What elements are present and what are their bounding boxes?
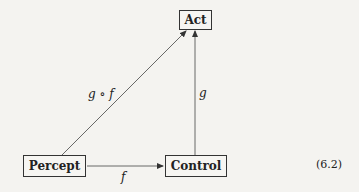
node-percept: Percept [23, 155, 86, 177]
edge-label-g-compose-f: g ∘ f [88, 87, 114, 101]
edge-label-g: g [199, 86, 207, 100]
edge-label-f: f [121, 170, 125, 184]
node-act: Act [179, 10, 212, 30]
node-control: Control [165, 155, 227, 177]
arrow-percept-to-act [62, 31, 186, 155]
equation-number: (6.2) [316, 158, 342, 171]
